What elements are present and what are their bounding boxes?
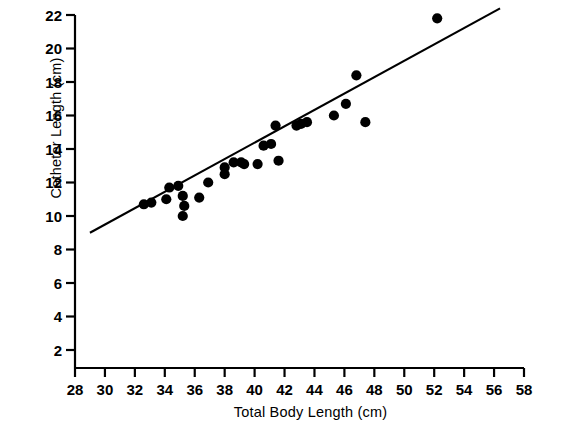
x-axis-tick-label: 54 (456, 381, 473, 398)
x-axis-tick-label: 36 (186, 381, 203, 398)
x-axis-label: Total Body Length (cm) (0, 404, 581, 420)
data-point (302, 117, 312, 127)
y-axis-tick-label: 2 (54, 342, 62, 359)
x-axis-tick-label: 44 (306, 381, 323, 398)
data-point (351, 70, 361, 80)
data-point (194, 192, 204, 202)
x-axis-tick-label: 38 (216, 381, 233, 398)
x-axis-tick-label: 52 (426, 381, 443, 398)
x-axis-tick-label: 42 (276, 381, 293, 398)
data-point (239, 159, 249, 169)
data-point (329, 110, 339, 120)
data-point (252, 159, 262, 169)
x-axis-tick-label: 48 (366, 381, 383, 398)
x-axis-tick-label: 58 (516, 381, 533, 398)
x-axis-tick-label: 34 (156, 381, 173, 398)
data-point (164, 182, 174, 192)
scatter-plot-figure: 2468101214161820222830323436384042444648… (0, 0, 581, 431)
data-point (270, 120, 280, 130)
data-point (266, 139, 276, 149)
data-point (146, 198, 156, 208)
y-axis-tick-label: 4 (54, 308, 63, 325)
x-axis-tick-label: 40 (246, 381, 263, 398)
data-point (178, 191, 188, 201)
data-point (341, 99, 351, 109)
x-axis-tick-label: 50 (396, 381, 413, 398)
y-axis-tick-label: 8 (54, 241, 62, 258)
data-point (220, 169, 230, 179)
x-axis-tick-label: 28 (67, 381, 84, 398)
x-axis-tick-label: 30 (97, 381, 114, 398)
data-point (173, 181, 183, 191)
y-axis-label: Catheter Length (cm) (48, 28, 64, 228)
y-axis-tick-label: 6 (54, 275, 62, 292)
x-axis-tick-label: 56 (486, 381, 503, 398)
y-axis-tick-label: 22 (45, 7, 62, 24)
data-point (273, 156, 283, 166)
data-point (179, 201, 189, 211)
x-axis-tick-label: 32 (127, 381, 144, 398)
data-point (161, 194, 171, 204)
plot-canvas: 2468101214161820222830323436384042444648… (0, 0, 581, 431)
data-point (432, 13, 442, 23)
data-point (178, 211, 188, 221)
data-point (360, 117, 370, 127)
data-point (203, 177, 213, 187)
x-axis-tick-label: 46 (336, 381, 353, 398)
